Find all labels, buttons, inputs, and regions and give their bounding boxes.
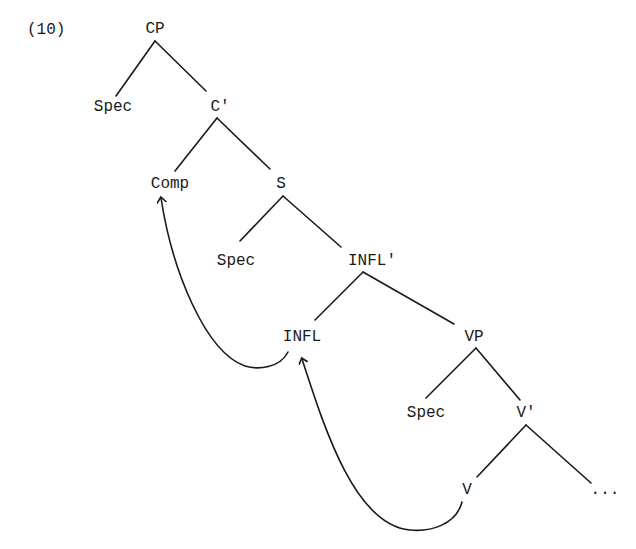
tree-branches (0, 0, 636, 549)
branch-cp-cbar (155, 41, 206, 91)
branch-vbar-ellipsis (526, 425, 591, 483)
node-v: V (462, 482, 472, 498)
example-number: (10) (27, 22, 65, 38)
branch-vp-vbar (476, 348, 520, 400)
node-infl: INFL (283, 329, 321, 345)
node-infl-bar: INFL' (348, 253, 396, 269)
branch-cbar-comp (175, 118, 217, 171)
node-comp: Comp (151, 176, 189, 192)
node-s-spec: Spec (217, 253, 255, 269)
branch-cbar-s (217, 118, 270, 169)
node-cp-spec: Spec (94, 99, 132, 115)
branch-vbar-v (477, 425, 526, 477)
movement-arrow-v-to-infl (302, 359, 462, 530)
branch-s-spec (240, 196, 283, 241)
syntax-tree-diagram: (10) CP Spec C' Comp S Spec INFL' INFL V… (0, 0, 636, 549)
branch-inflbar-infl (315, 272, 363, 320)
node-cp: CP (145, 21, 164, 37)
node-vp-spec: Spec (407, 405, 445, 421)
node-s: S (276, 176, 286, 192)
node-c-bar: C' (210, 99, 229, 115)
branch-cp-spec (116, 41, 155, 96)
node-vp: VP (464, 329, 483, 345)
branch-s-inflbar (283, 196, 341, 247)
node-ellipsis: ... (591, 482, 620, 498)
movement-arrow-infl-to-comp (161, 198, 288, 368)
branch-inflbar-vp (363, 272, 454, 324)
branch-vp-spec (426, 348, 476, 398)
node-v-bar: V' (516, 405, 535, 421)
